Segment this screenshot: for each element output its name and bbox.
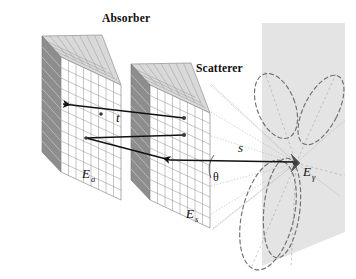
scatterer-field-base: E (185, 206, 194, 221)
ray-dot (182, 116, 186, 120)
detector-plane-group (262, 23, 345, 266)
ray-dot (99, 112, 103, 116)
detector-plane (262, 23, 345, 266)
ray-dot (84, 136, 88, 140)
angle-label: θ (213, 170, 219, 184)
absorber-field-base: E (81, 166, 90, 181)
figure-root: Absorber Scatterer E a E s E γ t s θ (0, 0, 356, 279)
absorber-scatterer-diagram: Absorber Scatterer E a E s E γ t s θ (0, 0, 356, 279)
absorber-title: Absorber (102, 12, 150, 24)
absorber-field-sub: a (91, 174, 95, 184)
distance-label: s (238, 140, 243, 155)
ray-dot (182, 133, 186, 137)
gamma-energy-base: E (302, 164, 311, 179)
scatterer-title: Scatterer (196, 62, 243, 74)
focus-point (293, 161, 298, 166)
thickness-label: t (116, 110, 120, 125)
